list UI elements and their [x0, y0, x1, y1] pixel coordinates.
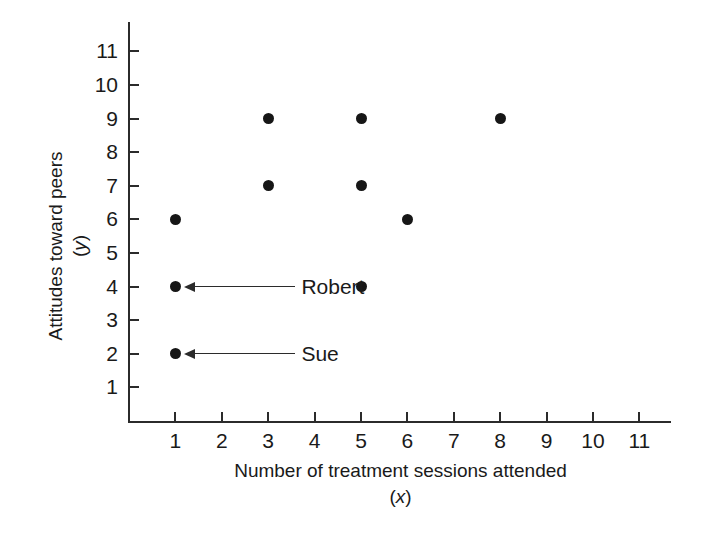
- data-point: [170, 214, 181, 225]
- y-tick-9: [130, 118, 139, 120]
- x-tick-label-4: 4: [295, 430, 335, 451]
- arrow-line: [194, 353, 295, 355]
- axis-symbol: y: [69, 241, 90, 251]
- x-tick-6: [406, 412, 408, 422]
- data-point: [170, 281, 181, 292]
- y-tick-10: [130, 84, 139, 86]
- x-axis-title: Number of treatment sessions attended(x): [128, 458, 673, 510]
- data-point: [356, 113, 367, 124]
- x-tick-11: [638, 412, 640, 422]
- data-point: [263, 180, 274, 191]
- x-tick-label-2: 2: [202, 430, 242, 451]
- x-tick-label-5: 5: [341, 430, 381, 451]
- annotation-label: Robert: [301, 276, 364, 297]
- y-axis-line: [128, 22, 130, 423]
- scatter-plot-figure: 1234567891011 1234567891011 Attitudes to…: [0, 0, 701, 535]
- x-tick-10: [592, 412, 594, 422]
- x-tick-9: [546, 412, 548, 422]
- x-tick-4: [314, 412, 316, 422]
- x-tick-label-7: 7: [434, 430, 474, 451]
- data-point: [170, 348, 181, 359]
- data-point: [356, 180, 367, 191]
- x-tick-7: [453, 412, 455, 422]
- x-tick-label-10: 10: [573, 430, 613, 451]
- y-tick-3: [130, 319, 139, 321]
- y-tick-6: [130, 218, 139, 220]
- data-point: [263, 113, 274, 124]
- x-tick-3: [267, 412, 269, 422]
- x-tick-label-6: 6: [387, 430, 427, 451]
- x-axis-line: [128, 421, 671, 423]
- y-tick-1: [130, 386, 139, 388]
- y-tick-5: [130, 252, 139, 254]
- y-tick-2: [130, 353, 139, 355]
- x-tick-1: [174, 412, 176, 422]
- x-tick-label-1: 1: [155, 430, 195, 451]
- y-tick-11: [130, 50, 139, 52]
- x-tick-label-9: 9: [527, 430, 567, 451]
- x-tick-5: [360, 412, 362, 422]
- axis-symbol: x: [396, 486, 406, 507]
- y-tick-7: [130, 185, 139, 187]
- x-tick-2: [221, 412, 223, 422]
- x-tick-label-8: 8: [480, 430, 520, 451]
- x-tick-label-3: 3: [248, 430, 288, 451]
- y-tick-4: [130, 286, 139, 288]
- x-tick-8: [499, 412, 501, 422]
- annotation-label: Sue: [301, 343, 338, 364]
- y-axis-title: Attitudes toward peers(y): [44, 36, 92, 456]
- x-tick-label-11: 11: [619, 430, 659, 451]
- y-tick-8: [130, 151, 139, 153]
- data-point: [402, 214, 413, 225]
- arrow-line: [194, 286, 295, 288]
- data-point: [495, 113, 506, 124]
